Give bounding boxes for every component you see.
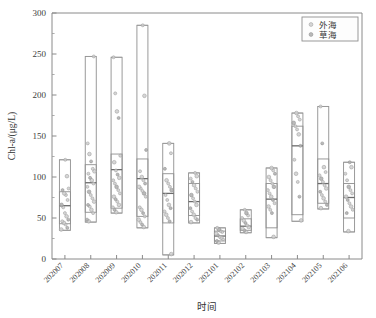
data-point [137,185,141,189]
box-group [189,171,200,224]
data-point [190,193,194,197]
data-point [168,220,171,223]
data-point [294,125,297,128]
data-point [319,177,323,181]
data-point [112,195,116,199]
y-tick-label: 50 [37,213,47,223]
data-point [112,56,115,59]
data-point [59,228,63,232]
data-point [113,182,116,185]
data-point [272,235,276,239]
data-point [270,166,274,170]
data-point [119,154,122,157]
data-point [117,203,121,207]
x-tick-label: 202007 [42,261,65,284]
y-tick-label: 150 [33,131,47,141]
data-point [169,252,173,256]
data-point [195,174,199,178]
data-point [193,200,196,203]
data-point [115,110,119,114]
data-point [114,92,117,95]
data-point [66,226,69,229]
box-group [137,24,148,229]
data-point [322,196,326,200]
data-point [319,206,323,210]
data-point [271,198,274,201]
data-point [86,142,89,145]
x-tick-label: 202105 [300,261,323,284]
data-point [323,184,326,187]
data-point [241,217,244,220]
data-point [88,152,92,156]
legend-marker-caohai [309,33,313,37]
data-point [296,180,299,183]
data-point [144,195,147,198]
iqr-box [292,126,303,215]
box-group [85,55,96,223]
data-point [67,187,70,190]
data-point [267,175,271,179]
data-point [299,219,303,223]
data-point [319,105,322,108]
data-point [267,205,271,209]
data-point [89,176,92,179]
data-point [192,213,196,217]
data-point [192,183,196,187]
data-point [349,189,352,192]
data-point [117,116,120,119]
data-point [65,174,69,178]
data-point [344,172,347,175]
data-point [163,167,166,170]
data-point [273,202,276,205]
data-point [139,170,142,173]
data-point [295,111,299,115]
box-group [266,166,277,239]
data-point [138,206,141,209]
data-point [324,171,327,174]
data-point [299,144,302,147]
legend-label-caohai: 草海 [319,30,337,40]
data-point [271,182,274,185]
x-tick-label: 202106 [326,261,349,284]
legend-marker-waihai [309,23,313,27]
data-point [142,179,145,182]
data-point [324,200,327,203]
data-point [322,165,326,169]
x-tick-label: 202008 [68,261,91,284]
data-point [114,169,117,172]
data-point [144,182,147,185]
data-point [325,203,328,206]
data-point [111,206,114,209]
data-point [87,190,91,194]
data-point [116,173,119,176]
data-point [165,178,169,182]
data-point [214,232,218,236]
x-tick-label: 202101 [197,261,220,284]
data-point [167,203,171,207]
data-point [348,202,351,205]
data-point [189,177,192,180]
data-point [86,218,89,221]
data-point [169,152,172,155]
data-point [112,179,115,182]
data-point [115,185,119,189]
data-point [191,210,194,213]
data-point [140,175,144,179]
data-point [143,215,146,218]
data-point [194,187,197,190]
data-point [163,210,166,213]
data-point [273,172,276,175]
data-point [245,211,249,215]
data-point [269,208,272,211]
data-point [351,192,354,195]
data-point [92,212,95,215]
data-point [195,203,199,207]
y-tick-label: 300 [33,8,47,18]
data-point [189,220,193,224]
box-group [214,226,225,244]
boxplot-chart: 050100150200250300Chl-a/(μg/L)2020072020… [0,0,376,318]
data-point [297,115,300,118]
y-tick-label: 100 [33,172,47,182]
data-point [118,192,121,195]
box-group [318,105,329,210]
